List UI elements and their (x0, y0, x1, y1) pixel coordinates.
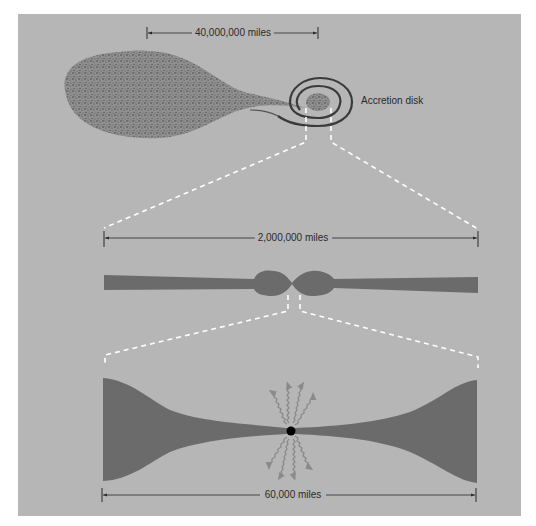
scale-label-40m: 40,000,000 miles (192, 27, 274, 39)
diagram-canvas (0, 0, 536, 526)
accretion-disk-diagram: 40,000,000 miles Accretion disk 2,000,00… (0, 0, 536, 526)
scale-label-60k: 60,000 miles (262, 489, 325, 501)
accretion-disk-label: Accretion disk (361, 95, 423, 107)
scale-label-2m: 2,000,000 miles (255, 232, 332, 244)
black-hole-icon (287, 427, 296, 436)
